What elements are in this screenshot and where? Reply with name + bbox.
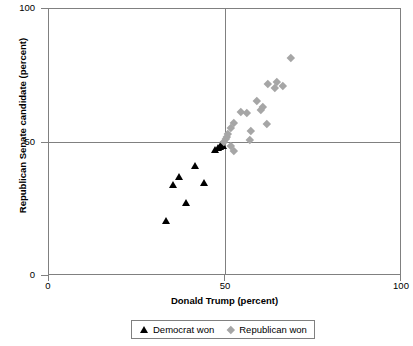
data-point-republican: [253, 96, 261, 104]
data-point-democrat: [169, 181, 177, 188]
legend-entry-democrat: Democrat won: [139, 324, 214, 335]
triangle-icon: [139, 324, 150, 335]
scatter-chart-figure: 100 50 0 Republican Senate candidate (pe…: [0, 0, 413, 346]
data-point-democrat: [182, 199, 190, 206]
y-tick-mark-100: [41, 8, 48, 9]
data-point-democrat: [200, 179, 208, 186]
x-axis-title: Donald Trump (percent): [48, 295, 401, 306]
data-point-democrat: [162, 217, 170, 224]
y-tick-mark-0: [41, 275, 48, 276]
data-point-republican: [247, 127, 255, 135]
data-point-republican: [286, 54, 294, 62]
y-tick-label-0: 0: [1, 270, 35, 280]
data-point-democrat: [191, 162, 199, 169]
y-axis-title: Republican Senate candidate (percent): [17, 26, 28, 226]
data-point-republican: [263, 120, 271, 128]
x-tick-label-0: 0: [28, 281, 68, 291]
data-point-republican: [230, 147, 238, 155]
y-tick-label-100: 100: [1, 3, 35, 13]
data-point-republican: [271, 84, 279, 92]
chart-legend: Democrat won Republican won: [131, 320, 315, 339]
x-tick-label-100: 100: [381, 281, 413, 291]
x-tick-label-50: 50: [205, 281, 245, 291]
diamond-icon: [225, 324, 236, 335]
data-point-republican: [279, 82, 287, 90]
legend-entry-republican: Republican won: [225, 324, 307, 335]
legend-label-democrat: Democrat won: [153, 324, 214, 335]
y-tick-mark-50: [41, 142, 48, 143]
legend-label-republican: Republican won: [239, 324, 307, 335]
data-point-democrat: [175, 173, 183, 180]
plot-area: [48, 8, 401, 275]
